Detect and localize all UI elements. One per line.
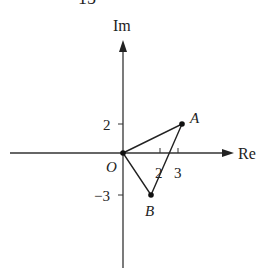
point-a [179, 121, 185, 127]
label-a: A [189, 110, 200, 126]
x-tick-label-3: 3 [174, 165, 182, 181]
point-o [120, 150, 126, 156]
diagram-canvas: 15 Re Im 2 −3 2 3 O A B [0, 0, 270, 268]
real-axis-label: Re [238, 145, 256, 162]
imaginary-axis-label: Im [113, 17, 131, 34]
imaginary-axis-arrow-icon [119, 40, 127, 52]
y-tick-label-2: 2 [103, 117, 111, 133]
label-o: O [106, 159, 117, 175]
real-axis-arrow-icon [222, 149, 234, 157]
complex-plane-diagram: 15 Re Im 2 −3 2 3 O A B [0, 0, 270, 268]
label-b: B [145, 203, 154, 219]
figure-number: 15 [78, 0, 96, 8]
triangle-oab [123, 124, 182, 195]
y-tick-label-neg3: −3 [94, 188, 110, 204]
point-b [148, 192, 154, 198]
